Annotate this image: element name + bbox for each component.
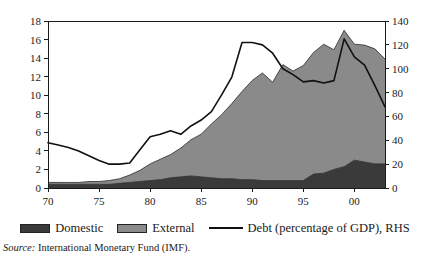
legend-label-domestic: Domestic [55,221,103,236]
left-axis-tick-label: 4 [36,145,42,157]
source-text: International Monetary Fund (IMF). [38,242,190,253]
legend-label-external: External [152,221,194,236]
left-axis-tick-label: 2 [36,163,42,175]
legend-entry-domestic: Domestic [20,221,103,236]
right-axis-tick-label: 140 [392,15,409,27]
chart-plot: 0246810121416180204060801001201407075808… [0,0,430,218]
chart-legend: Domestic External Debt (percentage of GD… [0,218,430,238]
x-axis-tick-label: 80 [145,195,157,207]
legend-entry-debt: Debt (percentage of GDP), RHS [209,221,410,236]
source-note: Source: International Monetary Fund (IMF… [3,242,190,253]
legend-line-debt [209,227,243,229]
left-axis-tick-label: 12 [30,71,41,83]
right-axis-tick-label: 60 [392,110,404,122]
source-label: Source: [3,242,35,253]
right-axis-tick-label: 20 [392,158,404,170]
left-axis-tick-label: 10 [30,89,42,101]
left-axis-tick-label: 14 [30,52,42,64]
x-axis-tick-label: 90 [247,195,259,207]
left-axis-tick-label: 0 [36,182,42,194]
x-axis-tick-label: 75 [94,195,106,207]
right-axis-tick-label: 0 [392,182,398,194]
right-axis-tick-label: 80 [392,87,404,99]
left-axis-tick-label: 16 [30,34,42,46]
legend-swatch-external [117,224,147,233]
legend-swatch-domestic [20,224,50,233]
left-axis-tick-label: 18 [30,15,42,27]
x-axis-tick-label: 70 [43,195,55,207]
left-axis-tick-label: 8 [36,108,42,120]
right-axis-tick-label: 100 [392,63,409,75]
x-axis-tick-label: 85 [196,195,208,207]
right-axis-tick-label: 40 [392,134,404,146]
x-axis-tick-label: 95 [298,195,310,207]
right-axis-tick-label: 120 [392,39,409,51]
legend-entry-external: External [117,221,194,236]
left-axis-tick-label: 6 [36,126,42,138]
x-axis-tick-label: 00 [349,195,361,207]
figure-container: 0246810121416180204060801001201407075808… [0,0,430,263]
legend-label-debt: Debt (percentage of GDP), RHS [248,221,410,236]
